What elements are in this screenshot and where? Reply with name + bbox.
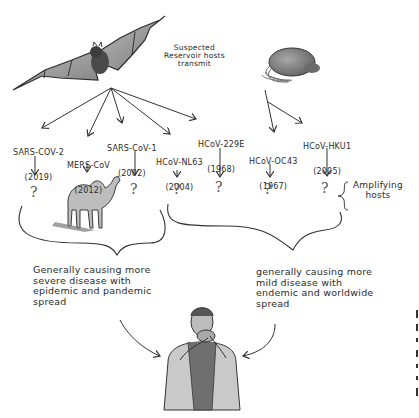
virus-year: (2005) <box>303 168 351 176</box>
virus-name: MERS-CoV <box>67 162 110 170</box>
virus-name: HCoV-OC43 <box>249 158 297 166</box>
reservoir-hosts-label: Suspected Reservoir hosts transmit <box>164 44 225 68</box>
virus-year: (1968) <box>198 166 245 174</box>
virus-label: HCoV-HKU1 (2005) <box>303 126 351 185</box>
virus-year: (2019) <box>13 174 64 182</box>
virus-label: SARS-CoV-1 (2002) <box>107 128 157 187</box>
rat-icon <box>262 48 320 82</box>
virus-name: SARS-CoV-1 <box>107 145 157 153</box>
unknown-host-marker: ? <box>30 184 38 200</box>
right-group-description: generally causing more mild disease with… <box>256 267 373 310</box>
virus-name: HCoV-HKU1 <box>303 143 351 151</box>
virus-year: (2012) <box>67 187 110 195</box>
unknown-host-marker: ? <box>130 181 138 197</box>
unknown-host-marker: ? <box>215 179 223 195</box>
virus-name: SARS-COV-2 <box>13 149 64 157</box>
virus-label: MERS-CoV (2012) <box>67 145 110 204</box>
unknown-host-marker: ? <box>173 181 181 197</box>
amplifying-hosts-label: Amplifying hosts <box>353 180 403 201</box>
bat-icon <box>13 16 165 90</box>
amplifying-hosts-brace <box>338 182 348 210</box>
unknown-host-marker: ? <box>321 180 329 196</box>
unknown-host-marker: ? <box>264 181 272 197</box>
virus-name: HCoV-NL63 <box>156 159 203 167</box>
virus-year: (2002) <box>107 170 157 178</box>
cropped-edge-text-marks <box>416 310 418 396</box>
rat-transmission-arrows <box>265 90 302 132</box>
virus-label: HCoV-OC43 (1967) <box>249 141 297 200</box>
virus-label: SARS-COV-2 (2019) <box>13 132 64 191</box>
virus-label: HCoV-229E (1968) <box>198 124 245 183</box>
right-group-brace <box>168 204 342 250</box>
coughing-human-icon <box>164 308 240 410</box>
virus-year: (1967) <box>249 183 297 191</box>
left-group-description: Generally causing more severe disease wi… <box>33 265 151 308</box>
virus-name: HCoV-229E <box>198 141 245 149</box>
